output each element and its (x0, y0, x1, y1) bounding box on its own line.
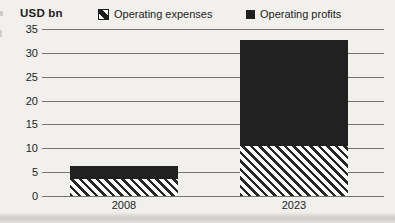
y-tick-label-0: 0 (0, 191, 38, 202)
plot-area: 05101520253035 (42, 29, 384, 196)
bar-segment-operating-expenses-2023 (240, 146, 348, 196)
scan-edge-artifact (0, 30, 2, 37)
scan-shadow-artifact (0, 212, 395, 223)
x-axis-label-2008: 2008 (94, 199, 154, 211)
bar-segment-operating-expenses-2008 (70, 179, 178, 196)
x-axis-label-2023: 2023 (264, 199, 324, 211)
y-tick-label-30: 30 (0, 48, 38, 59)
y-tick-label-25: 25 (0, 72, 38, 83)
bar-segment-operating-profits-2008 (70, 166, 178, 178)
chart-frame: USD bn Operating expenses Operating prof… (0, 0, 395, 223)
scan-edge-artifact (0, 11, 3, 16)
hatched-swatch-icon (98, 9, 109, 20)
legend-label: Operating profits (260, 8, 341, 20)
bar-segment-operating-profits-2023 (240, 40, 348, 147)
legend-label: Operating expenses (114, 8, 212, 20)
solid-swatch-icon (246, 10, 255, 19)
legend-item-operating-profits: Operating profits (246, 8, 341, 20)
y-tick-label-15: 15 (0, 119, 38, 130)
y-tick-label-35: 35 (0, 24, 38, 35)
y-tick-label-5: 5 (0, 167, 38, 178)
legend-item-operating-expenses: Operating expenses (98, 8, 212, 20)
y-tick-label-10: 10 (0, 143, 38, 154)
gridline-35 (42, 29, 384, 30)
y-tick-label-20: 20 (0, 96, 38, 107)
gridline-0 (42, 196, 384, 197)
y-axis-unit-label: USD bn (20, 7, 63, 19)
